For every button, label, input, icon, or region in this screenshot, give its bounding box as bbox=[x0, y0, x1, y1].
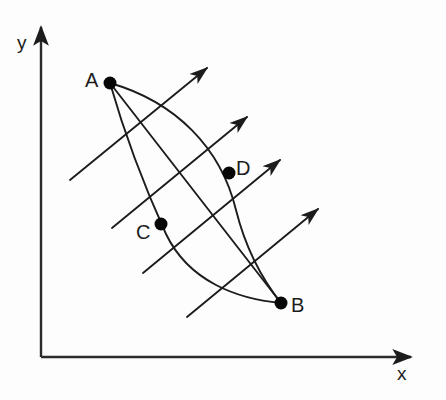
chords-group bbox=[110, 83, 281, 303]
point-marker-b bbox=[275, 297, 288, 310]
chord-a-to-b bbox=[110, 83, 281, 303]
vector-field-diagram: y x A B C D bbox=[0, 0, 446, 400]
point-label-a: A bbox=[85, 70, 98, 90]
y-axis-label: y bbox=[17, 33, 27, 52]
point-label-b: B bbox=[291, 295, 304, 315]
point-label-d: D bbox=[236, 158, 250, 178]
x-axis-label: x bbox=[397, 364, 407, 383]
point-marker-c bbox=[155, 218, 168, 231]
point-label-c: C bbox=[136, 222, 150, 242]
point-marker-a bbox=[104, 77, 117, 90]
point-marker-d bbox=[223, 167, 236, 180]
diagram-canvas bbox=[0, 0, 446, 400]
